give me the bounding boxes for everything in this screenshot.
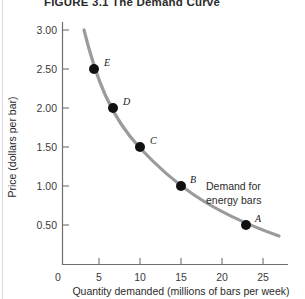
y-tick-label-2-00: 2.00: [37, 102, 58, 114]
data-point-B[interactable]: [176, 181, 186, 191]
data-point-label-A: A: [254, 213, 262, 224]
y-tick-label-1-50: 1.50: [37, 141, 58, 153]
data-point-label-E: E: [103, 57, 110, 68]
x-tick-label-15: 15: [175, 271, 187, 283]
x-tick-label-10: 10: [134, 271, 146, 283]
y-tick-label-3-00: 3.00: [37, 24, 58, 36]
data-point-label-D: D: [122, 96, 131, 107]
y-tick-label-2-50: 2.50: [37, 63, 58, 75]
data-point-D[interactable]: [108, 103, 118, 113]
demand-annotation-line-2: energy bars: [206, 194, 261, 206]
figure-container: FIGURE 3.1 The Demand Curve 3.00 2.50 2.…: [0, 0, 305, 299]
data-point-C[interactable]: [135, 142, 145, 152]
demand-annotation-line-1: Demand for: [206, 180, 261, 192]
y-tick-label-0-50: 0.50: [37, 219, 58, 231]
x-axis-ticks: [99, 258, 263, 265]
data-point-label-C: C: [150, 135, 157, 146]
x-tick-label-20: 20: [216, 271, 228, 283]
x-tick-label-5: 5: [96, 271, 102, 283]
x-axis-title: Quantity demanded (millions of bars per …: [72, 285, 289, 297]
demand-curve-chart: 3.00 2.50 2.00 1.50 1.00 0.50 0 5 10 15 …: [0, 0, 305, 299]
y-axis-title: Price (dollars per bar): [6, 97, 18, 198]
y-axis-ticks: [63, 30, 70, 225]
x-tick-label-25: 25: [257, 271, 269, 283]
y-tick-label-1-00: 1.00: [37, 180, 58, 192]
data-point-label-B: B: [190, 174, 196, 185]
x-tick-label-0: 0: [55, 271, 61, 283]
data-point-A[interactable]: [241, 220, 251, 230]
data-point-E[interactable]: [89, 64, 99, 74]
